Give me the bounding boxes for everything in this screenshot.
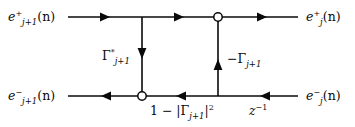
top-arrow-2-icon [174, 13, 184, 22]
bottom-arrow-3-icon [260, 92, 270, 101]
label-gain-right-branch: −Γj+1 [227, 53, 261, 68]
label-e-plus-output: e+j(n) [306, 10, 341, 26]
top-arrow-3-icon [257, 13, 267, 22]
reflection-prefix: 1 − | [150, 103, 181, 118]
gain-right-symbol: Γ [237, 51, 246, 66]
gain-right-subscript: j+1 [246, 59, 261, 69]
label-gain-left-branch: Γ*j+1 [102, 49, 130, 65]
label-reflection-term: 1 − |Γj+1|2 [150, 104, 214, 120]
label-e-minus-input: e−j+1(n) [8, 89, 55, 105]
bottom-arrow-2-icon [176, 92, 186, 101]
left-branch-arrow-icon [138, 48, 147, 59]
bottom-arrow-1-icon [101, 92, 111, 101]
e-minus-out-argument: (n) [323, 88, 341, 103]
e-plus-out-argument: (n) [323, 9, 341, 24]
reflection-subscript: j+1 [189, 111, 204, 121]
right-branch-arrow-icon [214, 59, 223, 70]
gain-right-sign: − [227, 51, 237, 66]
e-plus-in-subscript: j+1 [22, 17, 37, 27]
summing-node-bottom [138, 92, 146, 100]
top-arrow-1-icon [100, 13, 110, 22]
label-unit-delay: z−1 [249, 104, 267, 118]
e-minus-in-argument: (n) [37, 88, 55, 103]
reflection-exponent: 2 [209, 103, 214, 112]
label-e-minus-output: e−j(n) [306, 89, 341, 105]
delay-base: z [249, 103, 256, 118]
lattice-stage-figure: e+j+1(n) e−j+1(n) e+j(n) e−j(n) Γ*j+1 −Γ… [0, 0, 355, 127]
delay-exponent: −1 [256, 103, 268, 112]
label-e-plus-input: e+j+1(n) [8, 10, 55, 26]
e-minus-in-subscript: j+1 [22, 96, 37, 106]
summing-node-top [214, 13, 222, 21]
gain-left-subscript: j+1 [115, 56, 130, 66]
reflection-symbol: Γ [181, 103, 190, 118]
e-plus-in-argument: (n) [37, 9, 55, 24]
gain-left-symbol: Γ [102, 48, 111, 63]
